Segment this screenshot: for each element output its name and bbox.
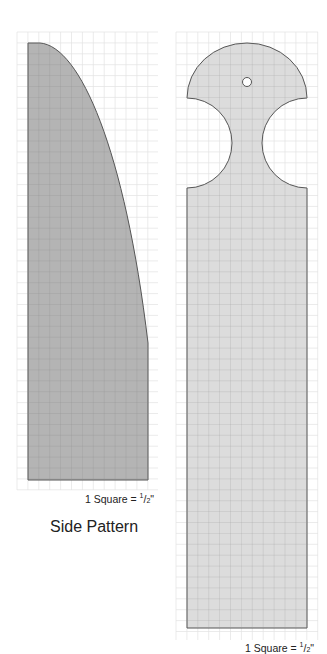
pattern-canvas bbox=[0, 0, 327, 654]
back-scale-label: 1 Square = 1/2" bbox=[245, 641, 314, 654]
back-scale-numerator: 1 bbox=[300, 641, 304, 648]
side-scale-prefix: 1 Square = bbox=[85, 493, 140, 505]
hanging-hole bbox=[243, 78, 252, 87]
side-scale-unit: " bbox=[150, 493, 154, 505]
side-scale-numerator: 1 bbox=[140, 492, 144, 499]
back-scale-prefix: 1 Square = bbox=[245, 642, 300, 654]
side-scale-label: 1 Square = 1/2" bbox=[85, 492, 154, 505]
back-pattern-shape bbox=[187, 43, 307, 628]
side-pattern-title: Side Pattern bbox=[50, 518, 138, 536]
back-scale-unit: " bbox=[310, 642, 314, 654]
